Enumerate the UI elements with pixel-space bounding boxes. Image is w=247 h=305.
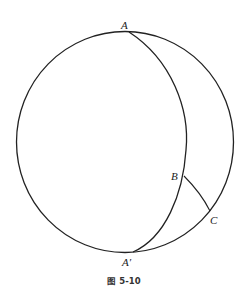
arc-A-Aprime [129, 32, 187, 252]
label-A-prime: A′ [121, 256, 132, 268]
outer-circle [17, 32, 234, 253]
figure-caption: 图 5-10 [107, 276, 140, 286]
label-C: C [210, 214, 218, 226]
label-B: B [171, 170, 178, 182]
sphere-diagram: A A′ B C 图 5-10 [0, 0, 247, 305]
label-A: A [120, 19, 128, 31]
arc-B-C [184, 176, 210, 211]
